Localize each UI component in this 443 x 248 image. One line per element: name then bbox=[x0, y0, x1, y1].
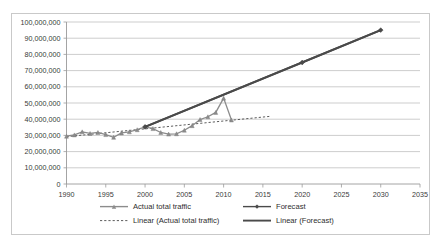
x-axis-tick-label: 2010 bbox=[216, 190, 232, 199]
legend-label: Forecast bbox=[276, 202, 306, 211]
series-line-forecast bbox=[145, 30, 381, 127]
x-axis-tick-label: 2005 bbox=[176, 190, 192, 199]
y-axis-tick-label: 30,000,000 bbox=[25, 131, 61, 140]
legend-marker-icon bbox=[255, 204, 259, 208]
x-axis-tick-label: 1995 bbox=[98, 190, 114, 199]
y-axis-tick-label: 100,000,000 bbox=[21, 18, 61, 27]
x-axis-tick-label: 1990 bbox=[59, 190, 75, 199]
x-axis-tick-label: 2015 bbox=[255, 190, 271, 199]
y-axis-tick-label: 60,000,000 bbox=[25, 82, 61, 91]
y-axis-tick-label: 10,000,000 bbox=[25, 163, 61, 172]
x-axis-tick-label: 2030 bbox=[373, 190, 389, 199]
x-axis-tick-label: 2000 bbox=[137, 190, 153, 199]
chart-canvas: 010,000,00020,000,00030,000,00040,000,00… bbox=[0, 0, 443, 248]
legend-item[interactable]: Actual total traffic bbox=[100, 202, 191, 211]
y-axis-tick-label: 70,000,000 bbox=[25, 66, 61, 75]
legend-item[interactable]: Forecast bbox=[243, 202, 306, 211]
chart-root: 010,000,00020,000,00030,000,00040,000,00… bbox=[0, 0, 443, 248]
legend-item[interactable]: Linear (Actual total traffic) bbox=[100, 216, 220, 225]
legend-label: Linear (Actual total traffic) bbox=[133, 216, 220, 225]
data-point-actual-total-traffic bbox=[222, 96, 226, 100]
x-axis-tick-label: 2025 bbox=[333, 190, 349, 199]
legend-item[interactable]: Linear (Forecast) bbox=[243, 216, 334, 225]
y-axis-tick-label: 0 bbox=[57, 180, 61, 189]
y-axis-tick-label: 50,000,000 bbox=[25, 99, 61, 108]
legend-label: Actual total traffic bbox=[133, 202, 191, 211]
x-axis-tick-label: 2035 bbox=[412, 190, 428, 199]
x-axis-tick-label: 2020 bbox=[294, 190, 310, 199]
y-axis-tick-label: 20,000,000 bbox=[25, 147, 61, 156]
y-axis-tick-label: 90,000,000 bbox=[25, 34, 61, 43]
y-axis-tick-label: 40,000,000 bbox=[25, 115, 61, 124]
y-axis-tick-label: 80,000,000 bbox=[25, 50, 61, 59]
legend-label: Linear (Forecast) bbox=[276, 216, 334, 225]
